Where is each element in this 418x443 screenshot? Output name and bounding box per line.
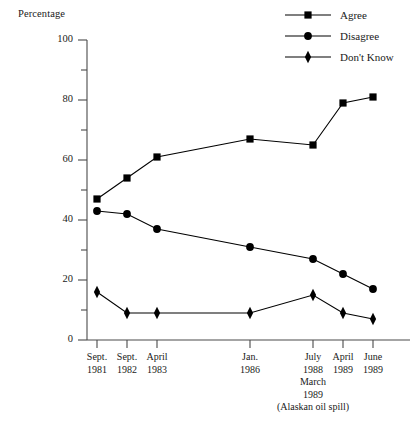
data-point [246,243,254,251]
data-point [309,255,317,263]
data-point [153,153,160,160]
y-axis-ticks [78,40,87,340]
legend-item-don-t-know: Don't Know [285,50,394,64]
series-disagree [93,207,377,293]
data-point [153,225,161,233]
data-point [339,270,347,278]
data-point [93,207,101,215]
x-tick-label-line: 1989 [343,364,403,377]
data-point [310,289,316,301]
x-axis-ticks [97,340,373,348]
y-tick-label: 0 [30,333,73,344]
legend-item-agree: Agree [285,8,367,22]
data-point [339,99,346,106]
data-point [94,286,100,298]
y-tick-label: 80 [30,93,73,104]
legend-label: Disagree [340,30,379,42]
legend-item-disagree: Disagree [285,29,379,43]
data-point [93,195,100,202]
data-point [154,307,160,319]
data-point [123,210,131,218]
axis-lines [87,40,410,340]
y-tick-label: 40 [30,213,73,224]
legend-marker-diamond-icon [285,50,331,64]
y-tick-label: 20 [30,273,73,284]
annotation-line: 1989 [233,389,393,402]
x-tick-label-line: April [127,351,187,364]
data-point [369,285,377,293]
series-line [97,97,373,199]
annotation-alaskan-oil-spill: March1989(Alaskan oil spill) [233,376,393,414]
annotation-line: March [233,376,393,389]
legend-marker-square-icon [285,8,331,22]
y-tick-label: 60 [30,153,73,164]
x-tick-label: June1989 [343,351,403,376]
series-don-t-know [94,286,376,325]
data-point [309,141,316,148]
data-point [246,135,253,142]
legend-label: Don't Know [340,51,394,63]
series-line [97,292,373,319]
data-point [369,93,376,100]
data-point [123,174,130,181]
x-tick-label-line: June [343,351,403,364]
data-point [124,307,130,319]
x-tick-label-line: Jan. [220,351,280,364]
data-point [247,307,253,319]
x-tick-label: Jan.1986 [220,351,280,376]
y-tick-label: 100 [30,33,73,44]
x-tick-label: April1983 [127,351,187,376]
legend-marker-circle-icon [285,29,331,43]
legend-label: Agree [340,9,367,21]
series-agree [93,93,376,202]
data-point [340,307,346,319]
series-line [97,211,373,289]
x-tick-label-line: 1983 [127,364,187,377]
data-series-layer [93,93,377,325]
annotation-line: (Alaskan oil spill) [233,401,393,414]
line-chart: Percentage 100806040200 Sept.1981Sept.19… [0,0,418,443]
x-tick-label-line: 1986 [220,364,280,377]
data-point [370,313,376,325]
